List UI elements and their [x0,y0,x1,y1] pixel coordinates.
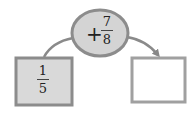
fraction-bar [101,30,113,31]
fraction-bar [37,79,49,80]
arrow-icon [127,37,158,55]
operation-fraction: 7 8 [101,15,113,46]
operation-numerator: 7 [103,15,111,28]
start-fraction: 1 5 [37,64,49,95]
operation-denominator: 8 [103,33,111,46]
result-answer[interactable] [135,61,182,99]
start-numerator: 1 [39,64,47,77]
connector-line [44,38,73,57]
start-denominator: 5 [39,82,47,95]
